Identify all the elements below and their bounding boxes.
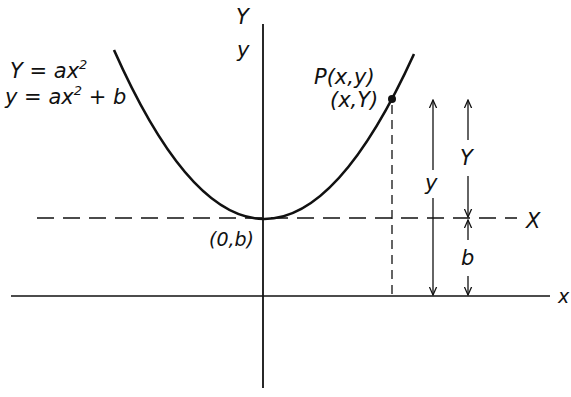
equation-translated: Y = ax2 <box>10 57 87 83</box>
label-new-X-axis: X <box>525 209 541 233</box>
label-point-translated: (x,Y) <box>330 88 378 112</box>
label-old-x-axis: x <box>557 285 570 307</box>
parabola-translation-diagram: Y = ax2 y = ax2 + b Y y X x P(x,y) (x,Y)… <box>0 0 571 397</box>
label-vertex: (0,b) <box>209 228 254 250</box>
point-p-marker <box>388 95 396 103</box>
label-upper-Y-axis: Y <box>236 5 251 29</box>
label-dimension-Y: Y <box>460 146 475 170</box>
equation-original: y = ax2 + b <box>4 83 126 109</box>
diagram-svg: Y = ax2 y = ax2 + b Y y X x P(x,y) (x,Y)… <box>0 0 571 397</box>
label-dimension-y: y <box>424 171 438 195</box>
label-dimension-b: b <box>461 246 474 270</box>
label-lower-y-axis: y <box>236 38 250 62</box>
label-point-p: P(x,y) <box>314 65 375 89</box>
